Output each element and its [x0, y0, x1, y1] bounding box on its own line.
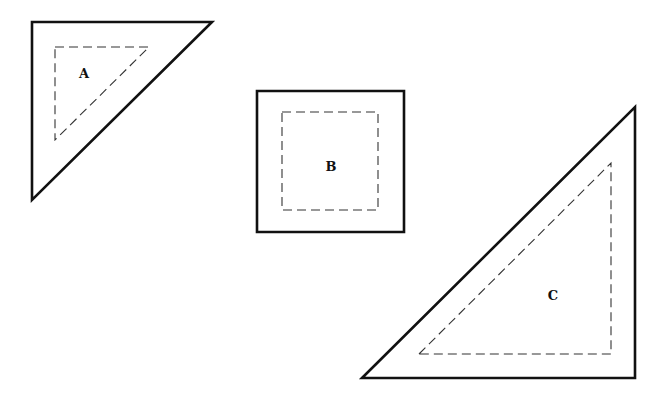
shape-a-label: A — [78, 66, 90, 81]
shape-b-label: B — [326, 159, 337, 174]
shape-b: B — [257, 91, 404, 232]
shape-a: A — [32, 22, 212, 200]
shape-a-dashed-inset — [55, 47, 149, 140]
shape-c-dashed-inset — [419, 163, 611, 354]
shape-a-outline — [32, 22, 212, 200]
shapes-diagram: A B C — [0, 0, 666, 395]
shape-c-label: C — [548, 288, 558, 303]
